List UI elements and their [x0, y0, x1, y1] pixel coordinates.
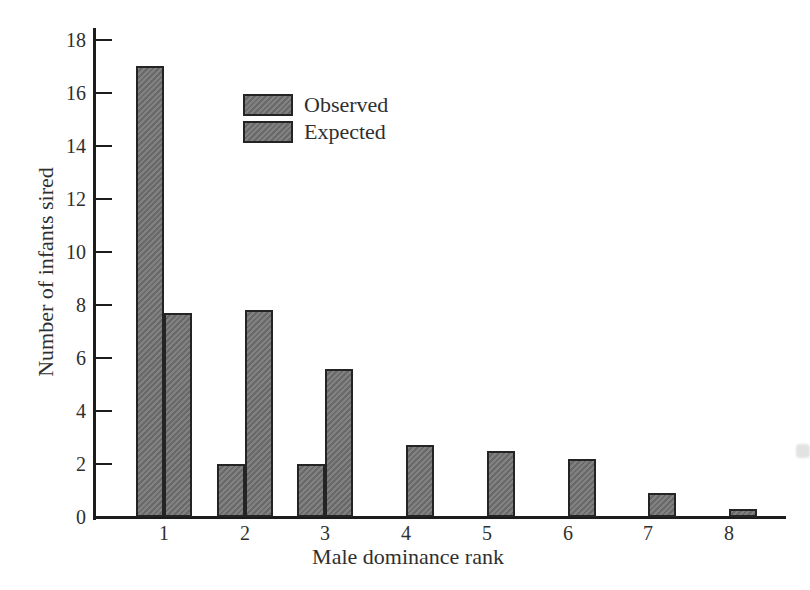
- bar-observed-rank-1: [136, 66, 164, 517]
- bar-observed-rank-3: [297, 464, 325, 517]
- y-tick-14: [96, 145, 112, 147]
- y-tick-label-10: 10: [44, 239, 86, 265]
- legend-item-observed: Observed: [243, 94, 388, 116]
- x-tick-label-6: 6: [548, 521, 588, 545]
- bar-expected-rank-6: [568, 459, 596, 517]
- bar-expected-rank-2: [245, 310, 273, 517]
- y-tick-label-16: 16: [44, 80, 86, 106]
- y-tick-18: [96, 39, 112, 41]
- x-tick-label-4: 4: [386, 521, 426, 545]
- y-tick-2: [96, 463, 112, 465]
- y-tick-12: [96, 198, 112, 200]
- legend-label-observed: Observed: [304, 92, 388, 118]
- x-tick-label-5: 5: [467, 521, 507, 545]
- x-tick-label-1: 1: [144, 521, 184, 545]
- legend: Observed Expected: [243, 94, 388, 148]
- legend-item-expected: Expected: [243, 121, 388, 143]
- y-tick-10: [96, 251, 112, 253]
- x-axis-title: Male dominance rank: [258, 544, 558, 570]
- bar-expected-rank-5: [487, 451, 515, 517]
- legend-label-expected: Expected: [304, 119, 386, 145]
- y-tick-4: [96, 410, 112, 412]
- page-edge-artifact: [796, 444, 810, 458]
- y-tick-label-0: 0: [44, 504, 86, 530]
- bar-expected-rank-8: [729, 509, 757, 517]
- bar-expected-rank-7: [648, 493, 676, 517]
- y-tick-label-8: 8: [44, 292, 86, 318]
- x-tick-label-3: 3: [305, 521, 345, 545]
- y-tick-label-12: 12: [44, 186, 86, 212]
- y-tick-label-14: 14: [44, 133, 86, 159]
- y-tick-8: [96, 304, 112, 306]
- bar-expected-rank-4: [406, 445, 434, 517]
- bar-expected-rank-3: [325, 369, 353, 517]
- chart-figure: Number of infants sired Observed Expecte…: [0, 0, 810, 590]
- y-tick-16: [96, 92, 112, 94]
- y-tick-label-2: 2: [44, 451, 86, 477]
- bar-observed-rank-2: [217, 464, 245, 517]
- y-axis: [93, 28, 96, 520]
- observed-swatch: [243, 94, 293, 116]
- x-tick-label-7: 7: [628, 521, 668, 545]
- y-tick-6: [96, 357, 112, 359]
- y-tick-label-18: 18: [44, 27, 86, 53]
- x-tick-label-2: 2: [225, 521, 265, 545]
- x-tick-label-8: 8: [709, 521, 749, 545]
- expected-swatch: [243, 121, 293, 143]
- y-tick-label-4: 4: [44, 398, 86, 424]
- x-axis: [93, 516, 786, 519]
- bar-expected-rank-1: [164, 313, 192, 517]
- y-tick-label-6: 6: [44, 345, 86, 371]
